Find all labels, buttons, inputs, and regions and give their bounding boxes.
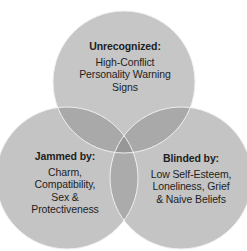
label-line: High-Conflict bbox=[68, 56, 182, 69]
label-line: Loneliness, Grief bbox=[138, 180, 244, 193]
label-line: Protectiveness bbox=[10, 203, 120, 216]
label-unrecognized: Unrecognized: High-Conflict Personality … bbox=[68, 40, 182, 93]
label-jammed-by: Jammed by: Charm, Compatibility, Sex & P… bbox=[10, 150, 120, 216]
label-title: Jammed by: bbox=[10, 150, 120, 163]
label-line: Charm, bbox=[10, 166, 120, 179]
label-line: Signs bbox=[68, 81, 182, 94]
label-line: Personality Warning bbox=[68, 68, 182, 81]
label-line: Sex & bbox=[10, 191, 120, 204]
label-line: Compatibility, bbox=[10, 178, 120, 191]
label-title: Blinded by: bbox=[138, 152, 244, 165]
label-line: & Naive Beliefs bbox=[138, 193, 244, 206]
label-title: Unrecognized: bbox=[68, 40, 182, 53]
label-blinded-by: Blinded by: Low Self-Esteem, Loneliness,… bbox=[138, 152, 244, 205]
label-line: Low Self-Esteem, bbox=[138, 168, 244, 181]
